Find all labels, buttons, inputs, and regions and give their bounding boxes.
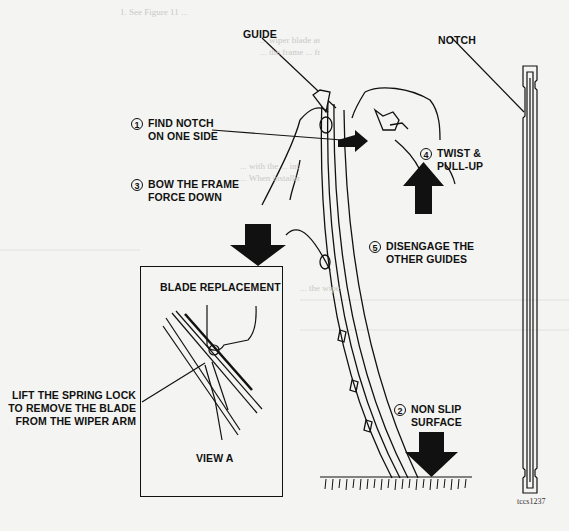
bleed-line: ... with the ... into the blade ... — [240, 160, 300, 172]
step-number-2: 2 — [394, 404, 406, 416]
arrow-down-bow — [230, 224, 286, 266]
inset-caption: VIEW A — [196, 452, 234, 465]
spring-lock-callout: LIFT THE SPRING LOCK TO REMOVE THE BLADE… — [0, 389, 136, 428]
bleed-line: ... When installing ... the frame ... — [240, 172, 300, 184]
notch-leader — [451, 37, 524, 112]
step1-label: 1FIND NOTCH ON ONE SIDE — [131, 117, 218, 143]
wiper-blade-diagram — [0, 0, 569, 531]
guide-label: GUIDE — [243, 28, 277, 41]
inset-title: BLADE REPLACEMENT — [160, 281, 281, 294]
step-number-3: 3 — [131, 179, 143, 191]
figure-id: tccs1237 — [517, 497, 545, 506]
notch-label: NOTCH — [438, 34, 476, 47]
arrow-twist-right — [338, 130, 368, 152]
bleed-line: ... the wiper ... the guides ... — [300, 282, 340, 294]
wiper-blade-straight — [523, 66, 537, 493]
step5-label: 5DISENGAGE THE OTHER GUIDES — [369, 240, 474, 266]
step-number-4: 4 — [420, 148, 432, 160]
bleed-heading: 1. See Figure 11 ... — [120, 6, 188, 18]
bleed-through-texture — [0, 250, 569, 330]
ground-surface — [320, 477, 472, 490]
step-number-5: 5 — [369, 241, 381, 253]
bleed-line: ... the frame ... from the blade ... — [260, 46, 320, 58]
step3-label: 3BOW THE FRAME FORCE DOWN — [131, 178, 239, 204]
arrow-down-surface — [405, 432, 458, 477]
step2-label: 2NON SLIP SURFACE — [394, 403, 462, 429]
step-number-1: 1 — [131, 118, 143, 130]
step4-label: 4TWIST & PULL-UP — [420, 147, 483, 173]
